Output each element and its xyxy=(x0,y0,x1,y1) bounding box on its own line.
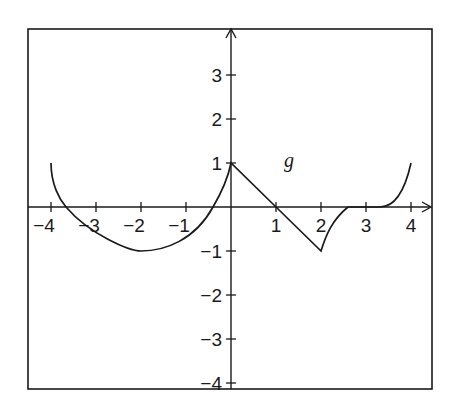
y-tick-label: 1 xyxy=(211,153,222,174)
plot-frame xyxy=(28,29,432,389)
y-tick-label: −2 xyxy=(200,285,222,306)
x-tick-label: 3 xyxy=(361,215,372,236)
x-tick-label: 2 xyxy=(316,215,327,236)
y-tick-label: 2 xyxy=(211,109,222,130)
y-tick-label: −4 xyxy=(200,373,222,394)
y-tick-label: −1 xyxy=(200,241,222,262)
function-graph: −4−3−2−11234 321−1−2−3−4 g xyxy=(0,0,453,412)
y-tick-label: 3 xyxy=(211,65,222,86)
function-label: g xyxy=(284,149,294,172)
x-tick-label: 4 xyxy=(406,215,417,236)
y-tick-label: −3 xyxy=(200,329,222,350)
x-tick-label: −4 xyxy=(33,215,55,236)
x-tick-label: −2 xyxy=(123,215,145,236)
x-tick-label: 1 xyxy=(271,215,282,236)
x-tick-label: −1 xyxy=(168,215,190,236)
